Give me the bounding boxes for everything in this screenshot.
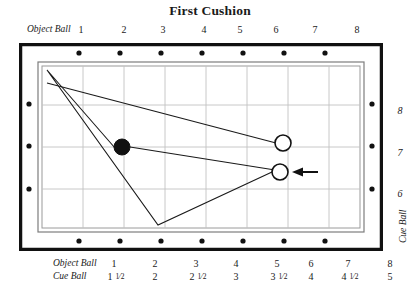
billiard-table — [19, 43, 383, 251]
bottom-object-ball-value: 7 — [346, 258, 351, 269]
bottom-cue-ball-value: 3 1⁄2 — [271, 271, 288, 282]
bottom-cue-ball-value: 4 1⁄2 — [342, 271, 359, 282]
diamond-top — [158, 50, 163, 55]
diamond-left — [26, 186, 31, 191]
right-scale-value: 6 — [393, 188, 407, 199]
diamond-bottom — [199, 238, 204, 243]
bottom-object-ball-label: Object Ball — [53, 258, 97, 268]
diamond-bottom — [240, 238, 245, 243]
bottom-object-ball-row: Object Ball 1 2 3 4 5 6 7 8 — [0, 258, 420, 271]
diamond-top — [76, 50, 81, 55]
diamond-right — [369, 186, 374, 191]
bottom-object-ball-value: 2 — [153, 258, 158, 269]
diamond-bottom — [117, 238, 122, 243]
table-svg — [19, 43, 383, 251]
fraction: 1⁄2 — [198, 273, 207, 281]
diamond-top — [322, 50, 327, 55]
fraction: 1⁄2 — [116, 273, 125, 281]
diamond-right — [369, 101, 374, 106]
top-scale-value: 8 — [355, 24, 360, 35]
bottom-cue-ball-value: 1 1⁄2 — [108, 271, 125, 282]
bottom-cue-ball-value: 2 1⁄2 — [190, 271, 207, 282]
top-scale-label: Object Ball — [27, 24, 71, 34]
top-scale-value: 7 — [313, 24, 318, 35]
cue-ball-target — [275, 135, 291, 151]
bottom-cue-ball-row: Cue Ball 1 1⁄2 2 2 1⁄2 3 3 1⁄2 4 4 1⁄2 5 — [0, 271, 420, 284]
diamond-bottom — [158, 238, 163, 243]
cue-ball-start — [272, 164, 288, 180]
fraction: 1⁄2 — [279, 273, 288, 281]
bottom-object-ball-value: 5 — [275, 258, 280, 269]
bottom-object-ball-value: 8 — [388, 258, 393, 269]
top-scale-value: 6 — [274, 24, 279, 35]
diamond-top — [240, 50, 245, 55]
diamond-top — [281, 50, 286, 55]
bottom-cue-ball-value: 3 — [234, 271, 239, 282]
bottom-object-ball-value: 4 — [234, 258, 239, 269]
diamond-bottom — [322, 238, 327, 243]
bottom-cue-ball-value: 5 — [388, 271, 393, 282]
top-scale-value: 2 — [122, 24, 127, 35]
diamond-bottom — [76, 238, 81, 243]
top-scale-value: 1 — [79, 24, 84, 35]
diamond-top — [199, 50, 204, 55]
object-ball — [114, 139, 130, 155]
bottom-object-ball-value: 3 — [194, 258, 199, 269]
diamond-left — [26, 101, 31, 106]
bottom-cue-ball-value: 4 — [309, 271, 314, 282]
bottom-object-ball-value: 6 — [309, 258, 314, 269]
bottom-object-ball-value: 1 — [112, 258, 117, 269]
bottom-cue-ball-value: 2 — [153, 271, 158, 282]
top-scale-value: 3 — [161, 24, 166, 35]
top-scale-value: 4 — [202, 24, 207, 35]
top-scale-row: Object Ball 1 2 3 4 5 6 7 8 — [0, 24, 420, 37]
fraction: 1⁄2 — [350, 273, 359, 281]
bottom-cue-ball-label: Cue Ball — [53, 271, 87, 281]
diamond-left — [26, 143, 31, 148]
right-scale-label: Cue Ball — [398, 209, 408, 243]
page-title: First Cushion — [0, 3, 420, 19]
right-scale-value: 8 — [393, 105, 407, 116]
diamond-top — [117, 50, 122, 55]
top-scale-value: 5 — [238, 24, 243, 35]
diamond-right — [369, 143, 374, 148]
right-scale-value: 7 — [393, 147, 407, 158]
diamond-bottom — [281, 238, 286, 243]
